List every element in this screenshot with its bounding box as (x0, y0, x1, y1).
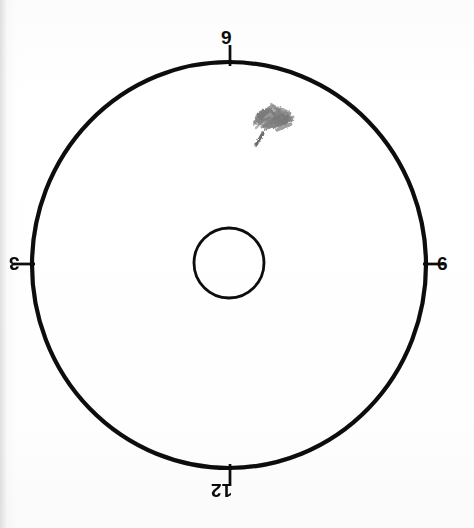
pencil-scribble-blob (254, 104, 293, 130)
dial-label-left: 3 (9, 254, 20, 273)
outer-dial-circle (32, 62, 426, 468)
diagram-page: 9 6 3 12 (0, 0, 474, 528)
dial-label-bottom: 12 (211, 481, 232, 500)
dial-label-top: 9 (221, 28, 232, 47)
clock-dial-figure (0, 0, 474, 528)
dial-label-right: 6 (437, 254, 448, 273)
inner-hub-circle (194, 228, 264, 298)
pencil-tick-mark (256, 133, 263, 145)
